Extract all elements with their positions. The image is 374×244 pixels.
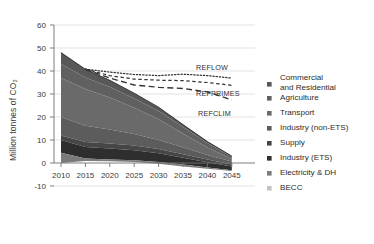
x-label-2035: 2035 — [174, 171, 192, 180]
annotation-reflow: REFLOW — [196, 63, 228, 72]
y-label-10: 10 — [37, 136, 46, 145]
legend-swatch-agriculture — [267, 96, 272, 101]
y-label-0: 0 — [42, 159, 47, 168]
legend-label-industry-non-ets: Industry (non-ETS) — [280, 123, 349, 132]
x-label-2025: 2025 — [125, 171, 143, 180]
annotation-refprimes: REFPRIMES — [196, 89, 240, 98]
legend-swatch-transport — [267, 111, 272, 116]
legend-label-commercial-line1: Commercial — [280, 73, 323, 82]
y-label-60: 60 — [37, 21, 46, 30]
legend-label-commercial-line2: and Residential — [280, 83, 336, 92]
y-label-20: 20 — [37, 113, 46, 122]
x-label-2015: 2015 — [77, 171, 95, 180]
annotation-refclim: REFCLIM — [198, 109, 231, 118]
legend-swatch-commercial-and-residential — [267, 82, 272, 87]
x-label-2010: 2010 — [52, 171, 70, 180]
legend-label-electricity-and-dh: Electricity & DH — [280, 168, 336, 177]
y-label-50: 50 — [37, 44, 46, 53]
legend-label-industry-ets: Industry (ETS) — [280, 153, 332, 162]
y-label-40: 40 — [37, 67, 46, 76]
x-label-2030: 2030 — [150, 171, 168, 180]
x-label-2045: 2045 — [223, 171, 241, 180]
x-label-2040: 2040 — [199, 171, 217, 180]
legend-label-supply: Supply — [280, 138, 306, 147]
legend-swatch-industry-ets — [267, 156, 272, 161]
legend-label-becc: BECC — [280, 183, 303, 192]
legend-swatch-supply — [267, 141, 272, 146]
x-label-2020: 2020 — [101, 171, 119, 180]
legend-swatch-electricity-and-dh — [267, 171, 272, 176]
y-label-30: 30 — [37, 90, 46, 99]
chart-background — [0, 0, 374, 244]
emissions-stacked-area-chart: REFLOW REFPRIMES REFCLIM 60 50 40 30 20 … — [0, 0, 374, 244]
legend-label-transport: Transport — [280, 108, 315, 117]
legend-swatch-becc — [267, 186, 272, 191]
legend-label-agriculture: Agriculture — [280, 93, 319, 102]
legend-swatch-industry-non-ets — [267, 126, 272, 131]
y-label-neg10: -10 — [34, 182, 46, 191]
y-axis-title: Million tonnes of CO₂ — [8, 79, 18, 161]
